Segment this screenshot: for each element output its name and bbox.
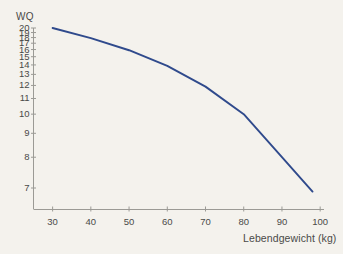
y-tick-label: 7	[24, 183, 29, 193]
x-tick-label: 50	[124, 217, 135, 227]
data-series-line	[53, 28, 313, 192]
y-tick-label: 10	[19, 109, 30, 119]
y-tick-label: 8	[24, 152, 29, 162]
y-tick-label: 11	[20, 94, 30, 104]
x-tick-label: 70	[200, 217, 211, 227]
x-tick-label: 80	[238, 217, 249, 227]
y-axis-title: WQ	[16, 12, 34, 22]
x-tick-label: 40	[86, 217, 97, 227]
x-tick-label: 90	[277, 217, 288, 227]
x-tick-label: 30	[47, 217, 58, 227]
chart-container: WQ Lebendgewicht (kg) 201918171615141312…	[0, 0, 343, 254]
x-tick-label: 100	[312, 217, 328, 227]
y-tick-label: 13	[19, 70, 30, 80]
x-tick-label: 60	[162, 217, 173, 227]
x-axis-title: Lebendgewicht (kg)	[243, 233, 336, 244]
y-tick-label: 9	[24, 129, 29, 139]
y-tick-label: 12	[19, 81, 30, 91]
